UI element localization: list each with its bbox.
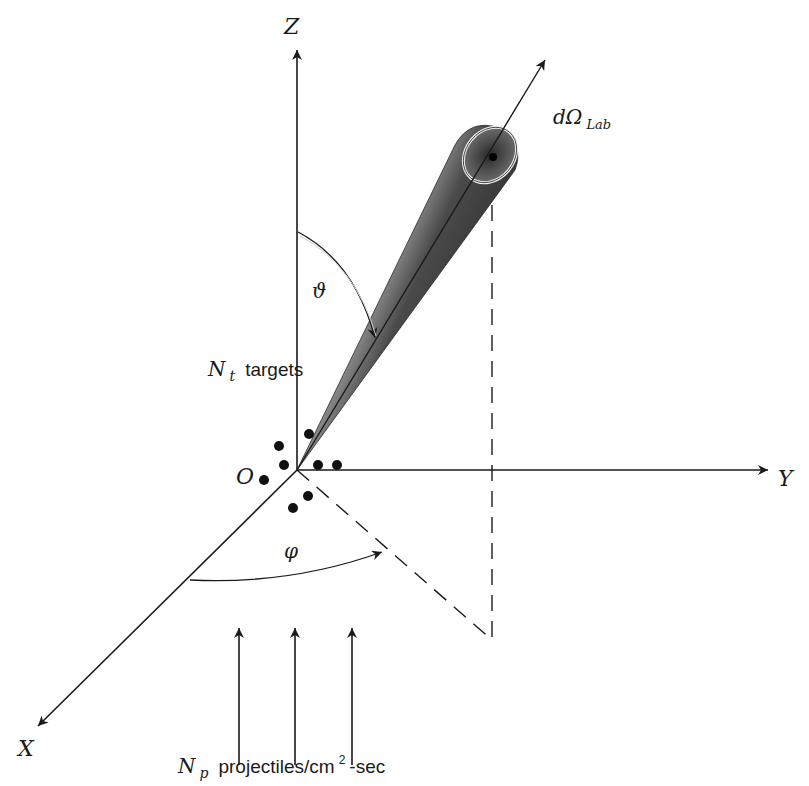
- scattering-diagram: Z Y X O ϑ φ dΩ Lab N t targets N p proje…: [0, 0, 809, 786]
- z-axis-label: Z: [283, 14, 300, 39]
- target-dots: [259, 429, 342, 513]
- origin-label: O: [236, 464, 254, 489]
- polar-angle-label: ϑ: [312, 279, 326, 303]
- azimuth-angle-label: φ: [284, 539, 298, 563]
- targets-label: N t targets: [207, 357, 303, 384]
- x-axis-label: X: [16, 736, 35, 761]
- y-axis-label: Y: [778, 466, 795, 491]
- projection-line-diagonal: [297, 470, 492, 640]
- projectile-arrows: [239, 628, 352, 765]
- scattering-direction-arrow: [297, 60, 545, 470]
- polar-angle-arc: [298, 232, 375, 338]
- x-axis: [38, 470, 297, 726]
- solid-angle-cone: [297, 117, 528, 470]
- projectiles-label: N p projectiles/cm 2 -sec: [177, 750, 385, 781]
- solid-angle-label: dΩ Lab: [553, 105, 611, 132]
